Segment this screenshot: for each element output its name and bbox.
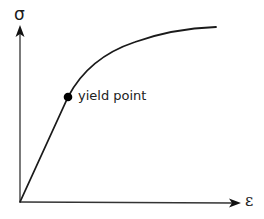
y-axis-label: σ	[14, 6, 25, 23]
diagram-canvas	[0, 0, 264, 219]
plastic-region-curve	[68, 27, 216, 97]
elastic-region-line	[20, 97, 68, 202]
yield-point-marker-icon	[64, 93, 73, 102]
stress-strain-diagram: σ ε yield point	[0, 0, 264, 219]
y-axis	[16, 25, 25, 202]
yield-point-label: yield point	[78, 89, 146, 102]
x-axis	[20, 199, 241, 208]
x-axis-label: ε	[245, 193, 253, 209]
stress-strain-curve	[20, 27, 216, 202]
